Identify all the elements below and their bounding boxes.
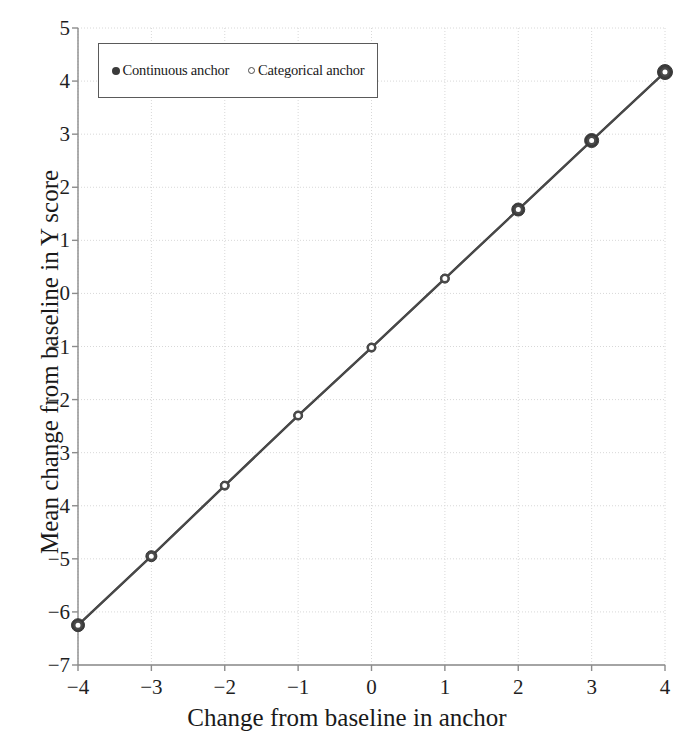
y-tick-label: 4	[28, 71, 70, 92]
x-tick-label: 1	[440, 677, 451, 698]
y-tick-label: 3	[28, 124, 70, 145]
y-tick-label: 5	[28, 18, 70, 39]
open-circle-icon	[248, 67, 255, 74]
data-point-categorical	[368, 344, 375, 351]
x-tick-label: −2	[214, 677, 236, 698]
data-point-categorical	[221, 482, 228, 489]
legend-item-continuous-anchor: Continuous anchor	[112, 62, 230, 79]
data-point-categorical	[661, 68, 668, 75]
y-axis-title: Mean change from baseline in Y score	[36, 170, 64, 554]
x-tick-label: 0	[366, 677, 377, 698]
x-tick-label: −1	[287, 677, 309, 698]
y-tick-label: −6	[28, 601, 70, 622]
legend: Continuous anchor Categorical anchor	[98, 43, 378, 98]
filled-circle-icon	[112, 67, 120, 75]
legend-item-categorical-anchor: Categorical anchor	[248, 62, 364, 79]
data-point-categorical	[441, 275, 448, 282]
x-tick-label: 3	[586, 677, 597, 698]
legend-label-categorical-anchor: Categorical anchor	[258, 62, 364, 79]
x-tick-label: 2	[513, 677, 524, 698]
x-tick-label: −4	[67, 677, 89, 698]
data-point-categorical	[74, 622, 81, 629]
chart-container: 543210−1−2−3−4−5−6−7 −4−3−2−101234 Chang…	[0, 0, 694, 746]
data-point-categorical	[295, 412, 302, 419]
x-tick-label: 4	[660, 677, 671, 698]
data-point-categorical	[148, 553, 155, 560]
y-tick-label: −7	[28, 655, 70, 676]
data-point-categorical	[515, 206, 522, 213]
data-point-categorical	[588, 137, 595, 144]
legend-label-continuous-anchor: Continuous anchor	[123, 62, 230, 79]
x-tick-label: −3	[140, 677, 162, 698]
plot-area	[0, 0, 694, 746]
x-axis-title: Change from baseline in anchor	[0, 704, 694, 732]
